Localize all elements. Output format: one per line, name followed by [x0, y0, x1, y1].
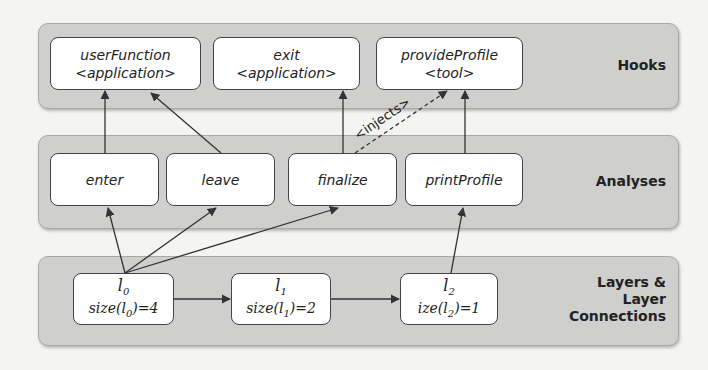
hook-name: userFunction [80, 46, 170, 64]
analysis-name: leave [202, 171, 240, 189]
hook-name: exit [273, 46, 299, 64]
analysis-print-profile: printProfile [405, 153, 523, 206]
analysis-finalize: finalize [288, 153, 397, 206]
layer-size: ize(l2)=1 [418, 300, 481, 322]
layer-name: l0 [118, 277, 130, 300]
layers-label-line2: Layer [560, 291, 666, 308]
hook-kind: <application> [236, 64, 337, 82]
hook-name: provideProfile [401, 46, 498, 64]
layer-size: size(l0)=4 [89, 300, 159, 322]
hook-provide-profile: provideProfile <tool> [376, 37, 523, 90]
analysis-enter: enter [50, 153, 159, 206]
analyses-group-label: Analyses [560, 173, 666, 190]
layer-l2: l2 ize(l2)=1 [400, 273, 498, 325]
hook-kind: <application> [75, 64, 176, 82]
analysis-leave: leave [166, 153, 275, 206]
hook-user-function: userFunction <application> [50, 37, 201, 90]
layer-name: l2 [443, 277, 455, 300]
layer-size: size(l1)=2 [246, 300, 316, 322]
layers-label-line3: Connections [560, 308, 666, 325]
analysis-name: printProfile [425, 171, 502, 189]
layers-group-label: Layers & Layer Connections [560, 274, 666, 325]
hooks-group-label: Hooks [560, 57, 666, 74]
analysis-name: enter [86, 171, 123, 189]
layer-l0: l0 size(l0)=4 [73, 273, 174, 325]
layer-name: l1 [275, 277, 287, 300]
layers-label-line1: Layers & [560, 274, 666, 291]
hook-exit: exit <application> [213, 37, 360, 90]
layer-l1: l1 size(l1)=2 [231, 273, 331, 325]
analysis-name: finalize [317, 171, 367, 189]
hook-kind: <tool> [425, 64, 475, 82]
